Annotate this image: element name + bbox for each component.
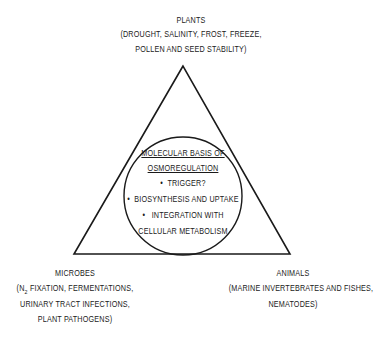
center-heading-line2: OSMOREGULATION	[119, 165, 247, 173]
center-item-integration-cont: CELLULAR METABOLISM	[119, 228, 247, 236]
center-item-trigger: • TRIGGER?	[119, 180, 247, 188]
microbes-line1-post: FIXATION, FERMENTATIONS,	[28, 284, 134, 293]
bullet: •	[160, 179, 163, 188]
item-biosynthesis-text: BIOSYNTHESIS AND UPTAKE	[134, 195, 238, 204]
item-trigger-text: TRIGGER?	[167, 179, 205, 188]
microbes-detail-line3: PLANT PATHOGENS)	[9, 316, 141, 324]
plants-detail-line1: (DROUGHT, SALINITY, FROST, FREEZE,	[23, 31, 359, 39]
bullet: •	[127, 195, 130, 204]
microbes-detail-line1: (N2 FIXATION, FERMENTATIONS,	[9, 285, 141, 295]
center-heading-line1: MOLECULAR BASIS OF	[119, 150, 247, 158]
center-item-integration: • INTEGRATION WITH	[119, 212, 247, 220]
plants-title: PLANTS	[23, 17, 359, 25]
plants-detail-line2: POLLEN AND SEED STABILITY)	[23, 46, 359, 54]
microbes-title: MICROBES	[9, 270, 141, 278]
microbes-detail-line2: URINARY TRACT INFECTIONS,	[9, 301, 141, 309]
triangle	[74, 66, 290, 254]
bullet: •	[142, 211, 145, 220]
item-integration-text: INTEGRATION WITH	[152, 211, 224, 220]
animals-detail-line1: (MARINE INVERTEBRATES AND FISHES,	[229, 285, 357, 293]
animals-title: ANIMALS	[229, 270, 357, 278]
animals-detail-line2: NEMATODES)	[229, 301, 357, 309]
center-item-biosynthesis: • BIOSYNTHESIS AND UPTAKE	[119, 196, 247, 204]
microbes-line1-pre: (N	[17, 284, 25, 293]
